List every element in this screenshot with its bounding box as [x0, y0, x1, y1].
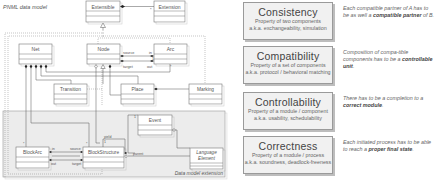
- property-note: There has to be a completion to a correc…: [343, 95, 434, 109]
- property-note: Each initiated process has to be able to…: [343, 139, 434, 153]
- property-compatibility: Compatibility Property of a set of compo…: [243, 46, 434, 86]
- svg-text:BlockStructure: BlockStructure: [88, 150, 120, 155]
- property-consistency: Consistency Property of two components a…: [243, 2, 434, 42]
- property-box: Compatibility Property of a set of compo…: [243, 46, 333, 84]
- property-title: Compatibility: [244, 50, 332, 62]
- class-extension: Extension: [154, 1, 185, 22]
- property-description: Property of two components: [244, 18, 332, 25]
- class-place: Place: [121, 84, 154, 104]
- svg-text:yield: yield: [104, 135, 111, 139]
- property-controllability: Controllability Property of a module / c…: [243, 92, 434, 132]
- pnml-data-model-diagram: PNML data model Data model extension Ext…: [0, 0, 230, 181]
- property-title: Correctness: [244, 140, 332, 152]
- svg-text:out: out: [51, 162, 56, 166]
- svg-text:source: source: [123, 51, 134, 55]
- property-aka: a.k.a. protocol / behavioral matching: [244, 69, 332, 76]
- svg-text:parent: parent: [133, 152, 143, 156]
- svg-text:Node: Node: [98, 46, 110, 52]
- class-block-arc: BlockArc: [16, 147, 49, 168]
- svg-text:*: *: [170, 65, 172, 69]
- class-language-element: Language Element: [190, 148, 223, 169]
- diagram-title: PNML data model: [3, 4, 48, 10]
- svg-text:Extensible: Extensible: [91, 4, 114, 10]
- svg-text:1: 1: [104, 140, 106, 144]
- svg-text:Event: Event: [149, 118, 162, 123]
- property-aka: a.k.a. usability, schedulability: [244, 115, 332, 122]
- property-title: Consistency: [244, 6, 332, 18]
- svg-text:*: *: [150, 7, 152, 12]
- property-box: Consistency Property of two components a…: [243, 2, 333, 40]
- svg-text:Place: Place: [132, 87, 144, 92]
- property-description: Property of a module / process: [244, 152, 332, 159]
- svg-text:out: out: [147, 65, 153, 69]
- property-box: Controllability Property of a module / c…: [243, 92, 333, 130]
- extension-label: Data model extension: [175, 170, 224, 176]
- class-block-structure: BlockStructure: [83, 147, 124, 168]
- property-aka: a.k.a. exchangeability, simulation: [244, 25, 332, 32]
- property-box: Correctness Property of a module / proce…: [243, 136, 333, 174]
- class-node: Node: [87, 44, 120, 64]
- class-arc: Arc: [154, 44, 187, 64]
- svg-text:Language: Language: [196, 150, 217, 155]
- class-extensible: Extensible: [86, 1, 120, 22]
- svg-text:source: source: [70, 147, 81, 151]
- class-event: Event: [138, 115, 172, 135]
- svg-text:Net: Net: [32, 46, 40, 52]
- svg-text:in: in: [149, 51, 152, 55]
- svg-text:in: in: [52, 147, 55, 151]
- svg-text:Marking: Marking: [197, 87, 214, 92]
- svg-text:Transition: Transition: [60, 87, 81, 92]
- class-marking: Marking: [189, 84, 222, 104]
- svg-text:Element: Element: [198, 156, 216, 161]
- class-net: Net: [19, 44, 52, 64]
- property-correctness: Correctness Property of a module / proce…: [243, 136, 434, 176]
- property-note: Each compatible partner of A has to be a…: [343, 5, 434, 19]
- property-note: Composition of compa-tible components ha…: [343, 49, 434, 71]
- svg-text:target: target: [72, 162, 81, 166]
- class-transition: Transition: [54, 84, 87, 104]
- property-title: Controllability: [244, 96, 332, 108]
- properties-panel: Consistency Property of two components a…: [243, 0, 434, 181]
- svg-text:1: 1: [152, 57, 154, 61]
- svg-text:1: 1: [134, 115, 136, 119]
- property-description: Property of a set of components: [244, 62, 332, 69]
- property-description: Property of a module / component: [244, 108, 332, 115]
- svg-text:BlockArc: BlockArc: [23, 150, 43, 155]
- svg-text:Extension: Extension: [159, 4, 181, 10]
- svg-text:Arc: Arc: [167, 46, 175, 52]
- svg-text:target: target: [123, 65, 134, 69]
- property-aka: a.k.a. soundness, deadlock-freeness: [244, 159, 332, 166]
